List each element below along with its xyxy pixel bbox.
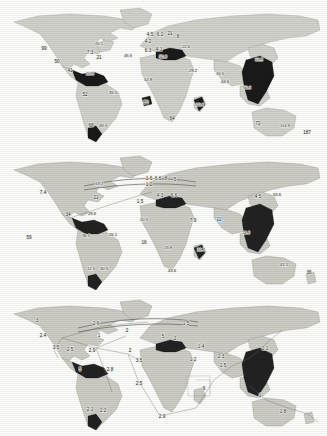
- map-value-label: 1.6: [146, 176, 153, 181]
- map-value-label: 5: [79, 367, 82, 372]
- map-value-label: 30.5: [100, 266, 109, 271]
- map-value-label: 21: [93, 195, 99, 200]
- map-value-label: 16: [141, 240, 147, 245]
- map-value-label: 5: [174, 177, 177, 182]
- map-value-label: 20.6: [196, 102, 205, 107]
- map-value-label: 11: [217, 217, 222, 222]
- map-value-label: 53.6: [273, 192, 282, 197]
- map-value-label: 50.6: [243, 85, 252, 90]
- map-value-label: 6.6: [155, 176, 162, 181]
- map-value-label: 1: [259, 393, 262, 398]
- map-value-label: 44.6: [221, 79, 230, 84]
- map-value-label: 4.1: [156, 47, 163, 52]
- map-value-label: 13.2: [95, 181, 104, 186]
- map-value-label: 59: [26, 235, 32, 240]
- map-value-label: 20.5: [140, 217, 149, 222]
- map-value-label: 8: [165, 176, 168, 181]
- map-value-label: 72: [255, 121, 261, 126]
- map-value-label: 24.6: [242, 230, 251, 235]
- map-value-label: 1.2: [190, 357, 197, 362]
- map-value-label: 23.8: [164, 245, 173, 250]
- map-value-label: 64: [169, 116, 175, 121]
- map-value-label: 52.8: [159, 54, 168, 59]
- panel-panel-a-labels: 99504120.17.32120.65235.16849.345.54.56.…: [41, 31, 311, 135]
- map-value-label: 22.6: [182, 44, 191, 49]
- map-value-label: 2: [129, 348, 132, 353]
- map-value-label: 99: [41, 46, 47, 51]
- map-value-label: 6.3: [145, 48, 152, 53]
- map-value-label: 36.5: [82, 233, 91, 238]
- map-value-label: 2.4: [40, 333, 47, 338]
- map-value-label: 20.1: [95, 41, 104, 46]
- map-value-label: 7.9: [190, 218, 197, 223]
- map-value-label: 26.1: [109, 232, 118, 237]
- map-value-label: 1.8: [280, 409, 287, 414]
- map-value-label: 2: [174, 336, 177, 341]
- map-value-label: 4.2: [145, 39, 152, 44]
- map-value-label: 49.3: [99, 123, 108, 128]
- map-value-label: 29.6: [88, 211, 97, 216]
- map-value-label: 2.5: [136, 381, 143, 386]
- three-panel-world-map-figure: 99504120.17.32120.65235.16849.345.54.56.…: [0, 0, 327, 436]
- map-value-label: 52.8: [144, 77, 153, 82]
- map-value-label: 36: [306, 270, 312, 275]
- map-value-label: 50: [54, 59, 60, 64]
- map-value-label: 29.2: [189, 68, 198, 73]
- map-value-label: 2.6: [93, 321, 100, 326]
- map-value-label: 41.1: [280, 262, 289, 267]
- map-value-label: 1.5: [183, 321, 190, 326]
- map-value-label: 2.2: [100, 408, 107, 413]
- map-value-label: 22.7: [197, 247, 206, 252]
- map-value-label: 34: [65, 212, 71, 217]
- panel-panel-c-labels: 32.43.52.52.612.952.82.12.2223.52.52.91.…: [36, 318, 287, 419]
- map-value-label: 21: [96, 55, 102, 60]
- map-value-label: 4.5: [255, 194, 262, 199]
- map-value-label: 68: [88, 123, 94, 128]
- map-value-label: 41: [67, 68, 73, 73]
- map-value-label: 12.5: [87, 266, 96, 271]
- map-value-label: 1.5: [220, 363, 227, 368]
- map-value-label: 2.3: [218, 354, 225, 359]
- map-value-label: 2.9: [89, 348, 96, 353]
- map-value-label: 4.5: [147, 32, 154, 37]
- map-value-label: 8: [177, 34, 180, 39]
- map-value-label: 43.6: [168, 268, 177, 273]
- map-value-label: 6: [203, 386, 206, 391]
- map-value-label: 2: [126, 328, 129, 333]
- map-value-label: 50: [143, 100, 149, 105]
- map-value-label: 16.5: [216, 71, 225, 76]
- map-value-label: 2.5: [67, 347, 74, 352]
- map-value-label: 2.8: [107, 367, 114, 372]
- map-value-label: 4.3: [157, 193, 164, 198]
- map-value-label: 3.5: [136, 358, 143, 363]
- value-label-layer: 99504120.17.32120.65235.16849.345.54.56.…: [0, 0, 327, 436]
- map-value-label: 21: [167, 31, 173, 36]
- map-value-label: 1.2: [146, 182, 153, 187]
- map-value-label: 45.5: [124, 53, 133, 58]
- map-value-label: 6.6: [171, 193, 178, 198]
- map-value-label: 63.5: [255, 57, 264, 62]
- map-value-label: 1.5: [137, 199, 144, 204]
- map-value-label: 52: [82, 92, 88, 97]
- map-value-label: 3: [36, 318, 39, 323]
- map-value-label: 7.4: [40, 190, 47, 195]
- map-value-label: 3.5: [53, 345, 60, 350]
- panel-panel-b-labels: 7.413.2213429.636.526.112.530.5591.66.68…: [26, 176, 312, 275]
- map-value-label: 2.1: [262, 346, 269, 351]
- map-value-label: 7.3: [87, 50, 94, 55]
- map-value-label: 2.1: [87, 407, 94, 412]
- map-value-label: 114.9: [280, 123, 291, 128]
- map-value-label: 187: [303, 130, 311, 135]
- map-value-label: 6.2: [157, 32, 164, 37]
- map-value-label: 20.6: [86, 71, 95, 76]
- map-value-label: 2.9: [159, 414, 166, 419]
- map-value-label: 1: [98, 333, 101, 338]
- map-value-label: 5: [162, 334, 165, 339]
- map-value-label: 35.1: [109, 90, 118, 95]
- map-value-label: 1.4: [198, 344, 205, 349]
